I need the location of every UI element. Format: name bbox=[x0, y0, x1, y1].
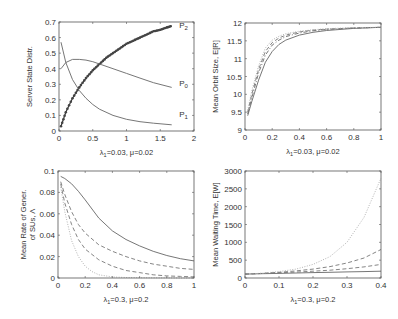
axes-box bbox=[59, 22, 194, 131]
curve-label-p1: P1 bbox=[179, 110, 188, 120]
y-tick-label: 0.3 bbox=[45, 80, 57, 89]
series-line-series-2 bbox=[248, 27, 381, 114]
y-axis-label: Mean Rate of Gener. bbox=[19, 190, 28, 260]
series-line-series-3 bbox=[245, 250, 381, 275]
marker bbox=[85, 77, 88, 80]
y-tick-label: 0.02 bbox=[39, 253, 55, 262]
figure: 00.511.5200.10.20.30.40.50.60.7λ1=0.03, … bbox=[0, 0, 398, 319]
y-tick-label: 0 bbox=[51, 274, 56, 283]
y-tick-label: 3000 bbox=[224, 167, 242, 176]
y-tick-label: 1000 bbox=[224, 238, 242, 247]
marker bbox=[83, 79, 86, 82]
series-line-series-4 bbox=[245, 178, 381, 274]
x-tick-label: 1 bbox=[124, 134, 129, 143]
marker bbox=[81, 81, 84, 84]
y-tick-label: 12 bbox=[233, 19, 242, 28]
y-tick-label: 9.5 bbox=[231, 108, 243, 117]
y-tick-label: 10.5 bbox=[226, 73, 242, 82]
x-tick-label: 0 bbox=[57, 134, 62, 143]
y-axis-label-line2: of SUs, Λ bbox=[28, 209, 37, 241]
y-tick-label: 500 bbox=[229, 256, 243, 265]
x-tick-label: 0 bbox=[56, 281, 61, 290]
x-tick-label: 0.8 bbox=[161, 281, 173, 290]
marker bbox=[62, 118, 65, 121]
x-tick-label: 0.2 bbox=[80, 281, 92, 290]
y-tick-label: 10 bbox=[233, 90, 242, 99]
x-tick-label: 0.5 bbox=[87, 134, 99, 143]
x-tick-label: 0.1 bbox=[273, 281, 285, 290]
x-tick-label: 0.2 bbox=[307, 281, 319, 290]
curve-label-p2: P2 bbox=[179, 21, 188, 31]
y-tick-label: 0.08 bbox=[39, 188, 55, 197]
x-tick-label: 0 bbox=[243, 281, 248, 290]
y-tick-label: 0.1 bbox=[44, 167, 56, 176]
series-line-series-4 bbox=[248, 27, 381, 110]
axes-box bbox=[245, 171, 381, 278]
x-tick-label: 1.5 bbox=[155, 134, 167, 143]
x-tick-label: 0.2 bbox=[267, 133, 279, 142]
marker bbox=[70, 101, 73, 104]
series-line-series-3 bbox=[61, 184, 194, 277]
x-axis-label: λ1=0.3, μ=0.2 bbox=[291, 295, 336, 305]
x-tick-label: 0.6 bbox=[321, 133, 333, 142]
y-tick-label: 0 bbox=[52, 127, 57, 136]
x-tick-label: 1 bbox=[192, 281, 197, 290]
y-axis-label: Mean Waiting Time, E[W] bbox=[211, 182, 220, 266]
marker bbox=[75, 92, 78, 95]
x-tick-label: 0.4 bbox=[107, 281, 119, 290]
y-tick-label: 0.2 bbox=[45, 96, 57, 105]
marker bbox=[63, 115, 66, 118]
x-tick-label: 1 bbox=[379, 133, 384, 142]
y-tick-label: 0 bbox=[238, 274, 243, 283]
subplot-mean-rate-generation: 00.20.40.60.8100.020.040.060.080.1λ1=0.3… bbox=[19, 167, 197, 305]
y-tick-label: 1500 bbox=[224, 221, 242, 230]
x-axis-label: λ1=0.3, μ=0.2 bbox=[104, 295, 149, 305]
y-tick-label: 2000 bbox=[224, 203, 242, 212]
marker bbox=[68, 104, 71, 107]
subplot-server-state: 00.511.5200.10.20.30.40.50.60.7λ1=0.03, … bbox=[25, 18, 197, 158]
marker bbox=[66, 108, 69, 111]
x-tick-label: 0.4 bbox=[375, 281, 387, 290]
y-tick-label: 9 bbox=[238, 126, 243, 135]
series-line-series-3 bbox=[248, 27, 381, 112]
series-line-series-4 bbox=[61, 187, 194, 278]
marker bbox=[61, 122, 64, 125]
y-tick-label: 0.6 bbox=[45, 34, 57, 43]
x-tick-label: 0.8 bbox=[348, 133, 360, 142]
y-tick-label: 0.4 bbox=[45, 65, 57, 74]
y-tick-label: 0.06 bbox=[39, 210, 55, 219]
x-axis-label: λ1=0.03, μ=0.02 bbox=[286, 147, 339, 157]
x-tick-label: 0.4 bbox=[294, 133, 306, 142]
marker bbox=[60, 125, 63, 128]
axes-box bbox=[245, 23, 381, 130]
marker bbox=[88, 73, 91, 76]
x-axis-label: λ1=0.03, μ=0.02 bbox=[100, 148, 153, 158]
curve-label-p0: P0 bbox=[179, 79, 188, 89]
y-tick-label: 0.04 bbox=[39, 231, 55, 240]
y-axis-label: Server State Distr. bbox=[25, 46, 34, 107]
subplot-mean-orbit-size: 00.20.40.60.8199.51010.51111.512λ1=0.03,… bbox=[211, 19, 384, 157]
subplot-mean-waiting-time: 00.10.20.30.4050010001500200025003000λ1=… bbox=[211, 167, 387, 305]
x-tick-label: 2 bbox=[192, 134, 197, 143]
marker bbox=[73, 94, 76, 97]
y-tick-label: 0.7 bbox=[45, 18, 57, 27]
y-tick-label: 11.5 bbox=[227, 37, 243, 46]
x-tick-label: 0.3 bbox=[341, 281, 353, 290]
y-tick-label: 0.5 bbox=[45, 49, 57, 58]
x-tick-label: 0 bbox=[243, 133, 248, 142]
x-tick-label: 0.6 bbox=[134, 281, 146, 290]
series-line-p0 bbox=[61, 59, 172, 87]
series-line-series-1 bbox=[61, 176, 194, 261]
marker bbox=[71, 97, 74, 100]
marker bbox=[80, 84, 83, 87]
series-line-series-1 bbox=[248, 27, 381, 115]
series-line-p2 bbox=[61, 26, 172, 126]
marker bbox=[169, 25, 172, 28]
y-tick-label: 0.1 bbox=[45, 111, 57, 120]
marker bbox=[65, 111, 68, 114]
y-axis-label: Mean Orbit Size, E[R] bbox=[211, 40, 220, 113]
y-tick-label: 2500 bbox=[224, 185, 242, 194]
y-tick-label: 11 bbox=[234, 55, 243, 64]
